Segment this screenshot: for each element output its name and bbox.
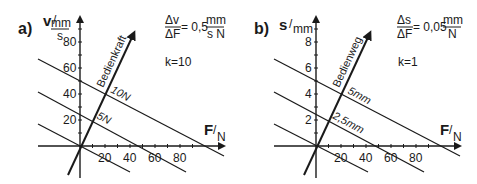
y-axis-label: s / mm [279,16,313,36]
iso-line-5n [38,92,186,172]
y-axis-unit-num: mm [51,16,71,30]
x-tick-label: 40 [123,151,137,165]
formula-eq: = 0,05 [413,20,447,34]
x-tick-label: 80 [409,151,423,165]
iso-line-2-5mm [274,92,424,172]
formula-num: Δs [397,13,411,27]
y-axis-unit: mm [293,22,313,36]
y-axis-var: s [279,16,287,33]
formula-eq: = 0,5 [181,20,208,34]
formula: Δs ΔF = 0,05 mm N [397,13,463,41]
k-value: k=10 [165,55,192,69]
panel-b-label: b) [254,20,269,37]
formula-den: ΔF [165,27,180,41]
y-tick-label: 80 [63,35,77,49]
y-tick-label: 4 [305,87,312,101]
x-axis-unit: N [217,130,226,144]
formula-unit-den: N [448,27,457,41]
formula-unit-num: mm [443,13,463,27]
formula: Δv ΔF = 0,5 mm s N [165,13,226,41]
x-tick-label: 20 [98,151,112,165]
panel-b: b) s / mm 2 4 6 8 20 40 60 80 F [254,13,463,178]
x-tick-label: 40 [359,151,373,165]
formula-num: Δv [165,13,179,27]
y-tick-label: 6 [305,61,312,75]
formula-unit-num: mm [206,13,226,27]
y-tick-label: 20 [63,113,77,127]
panel-a-label: a) [18,20,32,37]
diagram-canvas: a) v / mm s 20 40 60 80 [0,0,477,184]
k-value: k=1 [398,55,418,69]
x-axis-unit: N [453,130,462,144]
x-tick-label: 80 [173,151,187,165]
formula-den: ΔF [397,27,412,41]
x-axis-var: F [440,121,449,138]
panel-a: a) v / mm s 20 40 60 80 [18,12,226,178]
y-tick-label: 8 [305,35,312,49]
formula-unit-den: s N [207,27,225,41]
iso-line-0n [38,124,130,172]
x-axis-var: F [204,121,213,138]
x-tick-label: 60 [384,151,398,165]
line-label-5mm: 5mm [346,84,373,106]
line-label-10n: 10N [109,83,133,103]
y-tick-label: 2 [305,113,312,127]
y-tick-label: 40 [63,87,77,101]
